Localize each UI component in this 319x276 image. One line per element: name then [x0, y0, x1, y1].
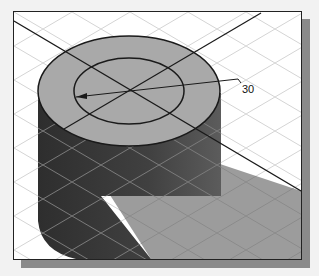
isometric-drawing — [14, 12, 301, 259]
viewport-frame: 30 — [13, 11, 302, 260]
dimension-label: 30 — [242, 83, 254, 95]
